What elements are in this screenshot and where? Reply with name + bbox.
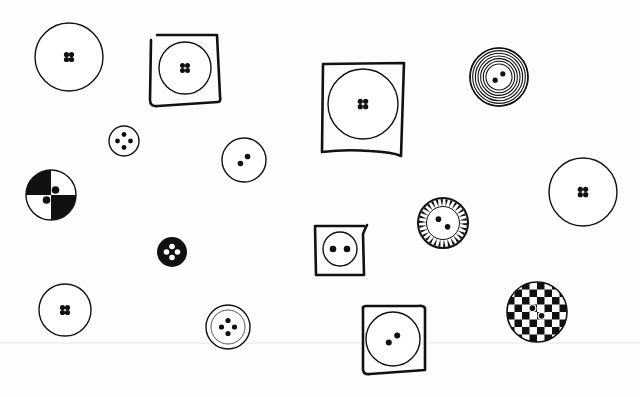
button-hole-icon — [344, 246, 351, 253]
button-hole-icon — [122, 145, 127, 150]
button-hole-icon — [578, 192, 583, 197]
button-quartered-black-white — [26, 170, 76, 220]
button-hole-icon — [180, 63, 185, 68]
button-hole-icon — [128, 139, 133, 144]
button-plain-large-top-left — [35, 23, 103, 91]
button-hole-icon — [386, 340, 392, 346]
button-plain-bottom-left — [39, 284, 91, 336]
button-hole-icon — [493, 78, 498, 83]
button-hole-icon — [219, 324, 224, 329]
button-framed-small-two-hole — [315, 225, 367, 275]
button-hole-icon — [578, 187, 583, 192]
button-hole-icon — [358, 99, 363, 104]
button-framed-top-left — [150, 35, 220, 106]
button-hole-icon — [169, 255, 175, 261]
button-sunburst-rim — [418, 198, 468, 248]
button-hole-icon — [164, 249, 170, 255]
button-hole-icon — [232, 324, 237, 329]
button-hole-icon — [115, 139, 120, 144]
button-hole-icon — [500, 71, 505, 76]
button-hole-icon — [363, 104, 368, 109]
button-hole-icon — [436, 216, 442, 222]
button-hole-icon — [64, 52, 69, 57]
buttons-drawing — [0, 0, 640, 397]
button-hole-icon — [363, 99, 368, 104]
button-two-hole-middle — [222, 138, 266, 182]
button-hole-icon — [358, 104, 363, 109]
button-hole-icon — [69, 52, 74, 57]
button-hole-icon — [65, 310, 70, 315]
button-solid-black-small — [157, 237, 187, 267]
button-hole-icon — [394, 332, 400, 338]
button-hole-icon — [64, 57, 69, 62]
button-hole-icon — [65, 305, 70, 310]
button-framed-bottom-center — [363, 306, 425, 374]
button-hole-icon — [185, 68, 190, 73]
button-plain-large-right — [549, 158, 617, 226]
button-small-four-hole — [109, 126, 139, 156]
button-hole-icon — [445, 224, 451, 230]
button-framed-large-center — [322, 63, 404, 156]
button-hole-icon — [175, 249, 181, 255]
button-hole-icon — [169, 244, 175, 250]
button-hole-icon — [60, 310, 65, 315]
button-hole-icon — [245, 154, 251, 160]
button-hole-icon — [225, 318, 230, 323]
button-hole-icon — [69, 57, 74, 62]
buttons-illustration — [0, 0, 640, 397]
button-checkerboard — [507, 282, 567, 342]
button-concentric-rings — [470, 48, 528, 106]
button-double-rim-four-hole — [206, 305, 250, 349]
button-hole-icon — [180, 68, 185, 73]
button-hole-icon — [330, 246, 337, 253]
button-hole-icon — [122, 132, 127, 137]
button-hole-icon — [225, 331, 230, 336]
button-hole-icon — [60, 305, 65, 310]
button-hole-icon — [238, 161, 244, 167]
button-hole-icon — [583, 192, 588, 197]
button-hole-icon — [185, 63, 190, 68]
button-hole-icon — [583, 187, 588, 192]
